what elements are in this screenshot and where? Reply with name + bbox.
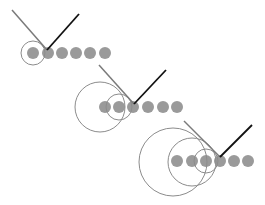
dot <box>84 47 96 59</box>
diagram-step-3 <box>139 121 254 196</box>
dot <box>157 101 169 113</box>
dot <box>113 101 125 113</box>
dot <box>99 101 111 113</box>
dot <box>99 47 111 59</box>
black-line <box>220 125 252 157</box>
dot <box>200 155 212 167</box>
dot <box>142 101 154 113</box>
dot <box>171 101 183 113</box>
dot <box>56 47 68 59</box>
dot <box>228 155 240 167</box>
diagram-step-2 <box>75 65 183 132</box>
gray-line <box>99 65 134 104</box>
dot <box>242 155 254 167</box>
diagram-canvas <box>0 0 265 205</box>
dot <box>70 47 82 59</box>
black-line <box>47 14 79 50</box>
dot <box>186 155 198 167</box>
dot <box>171 155 183 167</box>
diagram-step-1 <box>12 10 111 65</box>
gray-line <box>12 10 47 50</box>
dot <box>27 47 39 59</box>
gray-line <box>184 121 220 157</box>
black-line <box>134 70 166 104</box>
